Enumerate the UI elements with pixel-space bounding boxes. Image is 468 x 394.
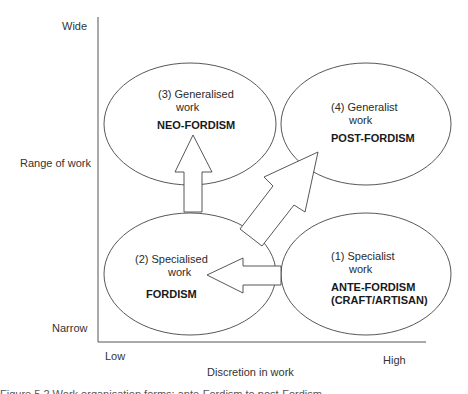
node-fordism: (2) Specialised work FORDISM — [135, 253, 208, 301]
node-post-fordism-line2: work — [331, 114, 415, 127]
node-fordism-line2: work — [135, 266, 208, 279]
diagram-canvas — [0, 0, 468, 394]
node-ante-fordism-title2: (CRAFT/ARTISAN) — [331, 294, 428, 307]
x-axis-low-label: Low — [105, 350, 125, 362]
node-ante-fordism: (1) Specialist work ANTE-FORDISM (CRAFT/… — [331, 250, 428, 307]
figure-caption: Figure 5.2 Work organisation forms: ante… — [0, 386, 322, 394]
x-axis-high-label: High — [383, 354, 406, 366]
y-axis-low-label: Narrow — [52, 322, 87, 334]
x-axis-title: Discretion in work — [207, 366, 294, 378]
node-post-fordism-line1: (4) Generalist — [331, 101, 415, 114]
node-ante-fordism-line1: (1) Specialist — [331, 250, 428, 263]
node-post-fordism: (4) Generalist work POST-FORDISM — [331, 101, 415, 145]
node-ante-fordism-line2: work — [331, 263, 428, 276]
node-ante-fordism-title: ANTE-FORDISM — [331, 281, 428, 294]
node-fordism-line1: (2) Specialised — [135, 253, 208, 266]
node-neo-fordism-line1: (3) Generalised — [158, 88, 235, 101]
node-fordism-title: FORDISM — [135, 288, 208, 301]
y-axis-title: Range of work — [20, 157, 91, 169]
node-post-fordism-title: POST-FORDISM — [331, 132, 415, 145]
node-neo-fordism-title: NEO-FORDISM — [157, 119, 235, 132]
node-neo-fordism: (3) Generalised work NEO-FORDISM — [158, 88, 235, 132]
y-axis-high-label: Wide — [62, 20, 87, 32]
node-neo-fordism-line2: work — [158, 101, 235, 114]
